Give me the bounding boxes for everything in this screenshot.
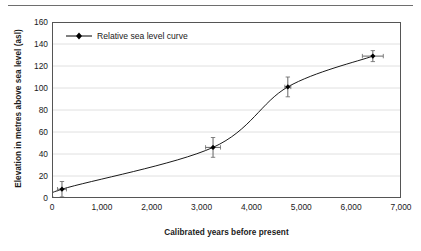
y-tick-label: 20 <box>2 172 48 180</box>
chart-figure: Elevation in metres above sea level (asl… <box>0 0 421 251</box>
x-axis-title: Calibrated years before present <box>52 228 401 237</box>
y-tick-label: 160 <box>2 18 48 26</box>
series-line <box>52 56 373 198</box>
y-tick-label: 100 <box>2 84 48 92</box>
plot-area: Relative sea level curve <box>52 22 401 198</box>
x-axis-tick-labels: 01,0002,0003,0004,0005,0006,0007,000 <box>52 203 401 217</box>
plot-canvas <box>52 22 401 198</box>
legend-label: Relative sea level curve <box>97 31 188 41</box>
data-point <box>57 182 66 197</box>
y-tick-label: 40 <box>2 150 48 158</box>
y-tick-label: 80 <box>2 106 48 114</box>
y-tick-label: 0 <box>2 194 48 202</box>
y-tick-label: 140 <box>2 40 48 48</box>
y-tick-label: 60 <box>2 128 48 136</box>
x-tick-label: 7,000 <box>371 203 421 211</box>
y-axis-tick-labels: 020406080100120140160 <box>0 22 48 198</box>
header-divider <box>8 5 413 6</box>
data-point <box>285 77 291 97</box>
y-tick-label: 120 <box>2 62 48 70</box>
legend: Relative sea level curve <box>66 31 188 41</box>
data-point <box>362 51 383 62</box>
legend-marker-icon <box>66 31 92 41</box>
